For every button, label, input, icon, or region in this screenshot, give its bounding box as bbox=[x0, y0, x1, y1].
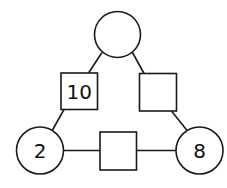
top-circle bbox=[95, 12, 141, 58]
right-circle-value: 8 bbox=[193, 139, 206, 163]
right-circle-node: 8 bbox=[176, 127, 223, 174]
top-circle-node bbox=[95, 12, 141, 58]
left-square-node: 10 bbox=[61, 73, 98, 110]
right-square-node bbox=[140, 74, 177, 112]
left-circle-node: 2 bbox=[17, 127, 64, 174]
bottom-square-node bbox=[100, 132, 137, 170]
edge-top-to-left-square bbox=[89, 53, 103, 74]
right-square bbox=[140, 74, 177, 112]
edge-left-square-to-left-circle bbox=[53, 110, 65, 131]
left-square-value: 10 bbox=[67, 80, 92, 104]
triangle-number-diagram: 2 8 10 bbox=[0, 0, 227, 188]
left-circle-value: 2 bbox=[34, 139, 47, 163]
edge-top-to-right-square bbox=[133, 53, 145, 74]
edge-right-square-to-right-circle bbox=[172, 111, 188, 131]
bottom-square bbox=[100, 132, 137, 170]
